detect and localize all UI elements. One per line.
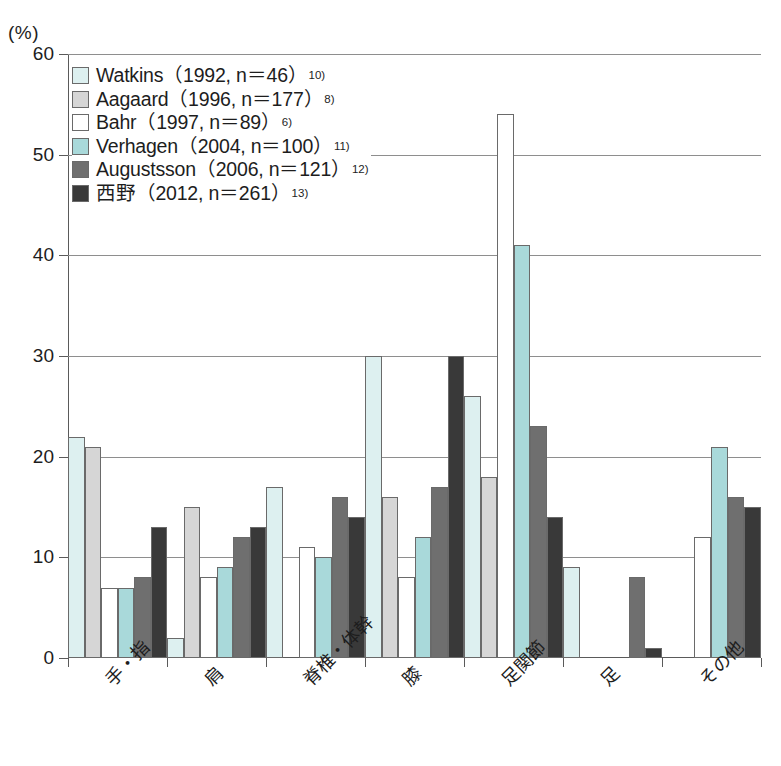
legend-label: 西野（2012, n＝261） bbox=[96, 184, 291, 204]
legend-label: Bahr（1997, n＝89） bbox=[96, 113, 281, 133]
bar[interactable] bbox=[200, 577, 217, 658]
bar[interactable] bbox=[694, 537, 711, 658]
y-axis-tick-label: 50 bbox=[33, 144, 54, 166]
x-axis-tick bbox=[662, 658, 663, 667]
legend-item-bahr[interactable]: Bahr（1997, n＝89）6) bbox=[72, 113, 371, 133]
bar-group bbox=[563, 54, 662, 658]
y-axis-tick bbox=[59, 255, 68, 256]
legend-reference-superscript: 6) bbox=[282, 117, 292, 129]
legend-swatch-icon bbox=[72, 138, 89, 155]
y-axis-tick bbox=[59, 457, 68, 458]
bar[interactable] bbox=[68, 437, 85, 658]
x-axis-tick bbox=[365, 658, 366, 667]
bar[interactable] bbox=[431, 487, 448, 658]
bar[interactable] bbox=[415, 537, 432, 658]
legend-swatch-icon bbox=[72, 67, 89, 84]
x-axis-tick bbox=[761, 658, 762, 667]
bar[interactable] bbox=[744, 507, 761, 658]
bar[interactable] bbox=[514, 245, 531, 658]
bar-group bbox=[464, 54, 563, 658]
y-axis-tick bbox=[59, 557, 68, 558]
bar[interactable] bbox=[167, 638, 184, 658]
legend-item-nishino[interactable]: 西野（2012, n＝261）13) bbox=[72, 184, 371, 204]
bar-group bbox=[365, 54, 464, 658]
legend-label: Watkins（1992, n＝46） bbox=[96, 66, 308, 86]
legend-label: Verhagen（2004, n＝100） bbox=[96, 137, 333, 157]
bar[interactable] bbox=[101, 588, 118, 658]
bar[interactable] bbox=[497, 114, 514, 658]
x-axis-category-label: 肩 bbox=[197, 659, 228, 690]
bar[interactable] bbox=[398, 577, 415, 658]
x-axis-category-label: 膝 bbox=[395, 659, 426, 690]
legend-swatch-icon bbox=[72, 91, 89, 108]
bar[interactable] bbox=[645, 648, 662, 658]
y-axis-tick-label: 10 bbox=[33, 546, 54, 568]
chart-legend: Watkins（1992, n＝46）10)Aagaard（1996, n＝17… bbox=[72, 66, 371, 203]
x-axis-tick bbox=[68, 658, 69, 667]
bar[interactable] bbox=[711, 447, 728, 658]
bar[interactable] bbox=[448, 356, 465, 658]
bar[interactable] bbox=[530, 426, 547, 658]
y-axis-tick-label: 30 bbox=[33, 345, 54, 367]
legend-reference-superscript: 12) bbox=[352, 164, 369, 176]
bar[interactable] bbox=[299, 547, 316, 658]
y-axis-tick-label: 20 bbox=[33, 446, 54, 468]
y-axis-tick bbox=[59, 155, 68, 156]
bar[interactable] bbox=[233, 537, 250, 658]
y-axis-tick-label: 40 bbox=[33, 244, 54, 266]
legend-reference-superscript: 8) bbox=[324, 94, 334, 106]
bar[interactable] bbox=[563, 567, 580, 658]
bar[interactable] bbox=[217, 567, 234, 658]
x-axis-tick bbox=[167, 658, 168, 667]
legend-reference-superscript: 10) bbox=[309, 70, 326, 82]
legend-label: Augustsson（2006, n＝121） bbox=[96, 160, 351, 180]
x-axis-tick bbox=[266, 658, 267, 667]
legend-reference-superscript: 11) bbox=[334, 141, 350, 153]
bar[interactable] bbox=[266, 487, 283, 658]
y-axis-tick bbox=[59, 658, 68, 659]
legend-item-verhagen[interactable]: Verhagen（2004, n＝100）11) bbox=[72, 137, 371, 157]
legend-item-aagaard[interactable]: Aagaard（1996, n＝177）8) bbox=[72, 90, 371, 110]
bar[interactable] bbox=[629, 577, 646, 658]
y-axis-unit-label: (%) bbox=[8, 22, 39, 44]
y-axis-tick-label: 60 bbox=[33, 43, 54, 65]
legend-item-watkins[interactable]: Watkins（1992, n＝46）10) bbox=[72, 66, 371, 86]
bar[interactable] bbox=[481, 477, 498, 658]
x-axis-category-label: 足 bbox=[593, 659, 624, 690]
bar[interactable] bbox=[151, 527, 168, 658]
x-axis-tick bbox=[563, 658, 564, 667]
y-axis-tick bbox=[59, 54, 68, 55]
bar[interactable] bbox=[464, 396, 481, 658]
y-axis-tick-label: 0 bbox=[43, 647, 54, 669]
legend-reference-superscript: 13) bbox=[292, 188, 309, 200]
bar[interactable] bbox=[382, 497, 399, 658]
x-axis-tick bbox=[464, 658, 465, 667]
bar-chart: (%) 0102030405060 Watkins（1992, n＝46）10)… bbox=[0, 0, 781, 766]
legend-swatch-icon bbox=[72, 161, 89, 178]
legend-swatch-icon bbox=[72, 114, 89, 131]
bar[interactable] bbox=[250, 527, 267, 658]
y-axis-tick bbox=[59, 356, 68, 357]
bar[interactable] bbox=[365, 356, 382, 658]
legend-item-augustsson[interactable]: Augustsson（2006, n＝121）12) bbox=[72, 160, 371, 180]
bar[interactable] bbox=[547, 517, 564, 658]
bar-group bbox=[662, 54, 761, 658]
legend-label: Aagaard（1996, n＝177） bbox=[96, 90, 323, 110]
bar[interactable] bbox=[85, 447, 102, 658]
bar[interactable] bbox=[184, 507, 201, 658]
legend-swatch-icon bbox=[72, 185, 89, 202]
